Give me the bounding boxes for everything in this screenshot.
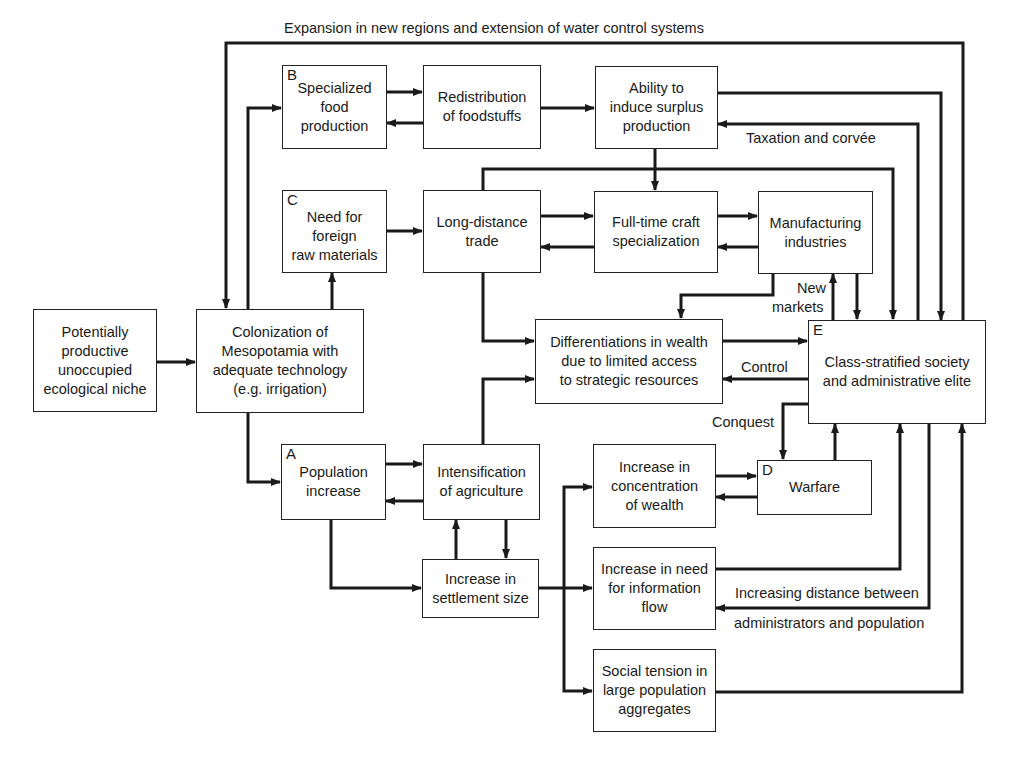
node-population: A Population increase xyxy=(281,444,386,520)
node-letter-c: C xyxy=(287,192,298,208)
node-redistribution: Redistribution of foodstuffs xyxy=(423,65,541,149)
node-social-tension-text: Social tension in large population aggre… xyxy=(602,662,708,719)
node-niche: Potentially productive unoccupied ecolog… xyxy=(33,309,157,412)
node-specialized-food: B Specialized food production xyxy=(282,65,387,149)
node-foreign-materials: C Need for foreign raw materials xyxy=(282,190,387,273)
node-warfare-text: Warfare xyxy=(789,478,840,497)
node-long-distance-trade: Long-distance trade xyxy=(423,190,541,273)
node-intensification-text: Intensification of agriculture xyxy=(437,463,526,501)
node-class-stratified: E Class-stratified society and administr… xyxy=(808,320,986,424)
node-craft-specialization-text: Full-time craft specialization xyxy=(612,213,700,251)
expansion-label: Expansion in new regions and extension o… xyxy=(284,20,704,37)
node-foreign-materials-text: Need for foreign raw materials xyxy=(291,208,377,265)
node-specialized-food-text: Specialized food production xyxy=(297,79,371,136)
conquest-label: Conquest xyxy=(712,414,774,431)
distance-label-line1: Increasing distance between xyxy=(735,585,919,602)
node-social-tension: Social tension in large population aggre… xyxy=(593,649,716,732)
distance-label-line2: administrators and population xyxy=(734,615,924,632)
node-information-flow-text: Increase in need for information flow xyxy=(601,560,708,617)
node-colonization-text: Colonization of Mesopotamia with adequat… xyxy=(213,323,348,399)
node-information-flow: Increase in need for information flow xyxy=(593,547,716,630)
node-surplus: Ability to induce surplus production xyxy=(595,66,718,149)
taxation-label: Taxation and corvée xyxy=(746,130,876,147)
node-class-stratified-text: Class-stratified society and administrat… xyxy=(823,353,971,391)
node-craft-specialization: Full-time craft specialization xyxy=(594,191,718,273)
node-intensification: Intensification of agriculture xyxy=(423,444,540,520)
node-redistribution-text: Redistribution of foodstuffs xyxy=(438,88,527,126)
node-letter-a: A xyxy=(286,446,296,462)
node-manufacturing: Manufacturing industries xyxy=(758,191,873,274)
node-differentiations: Differentiations in wealth due to limite… xyxy=(535,319,723,404)
node-letter-b: B xyxy=(287,67,297,83)
node-long-distance-trade-text: Long-distance trade xyxy=(436,213,527,251)
node-niche-text: Potentially productive unoccupied ecolog… xyxy=(43,323,146,399)
node-letter-d: D xyxy=(762,462,773,478)
node-differentiations-text: Differentiations in wealth due to limite… xyxy=(550,333,708,390)
node-population-text: Population increase xyxy=(299,463,368,501)
node-letter-e: E xyxy=(813,322,823,338)
node-settlement-size-text: Increase in settlement size xyxy=(432,570,529,608)
flow-diagram: Expansion in new regions and extension o… xyxy=(0,0,1011,759)
control-label: Control xyxy=(741,359,788,376)
new-markets-label-line1: New xyxy=(797,280,826,297)
node-concentration-wealth: Increase in concentration of wealth xyxy=(593,444,716,528)
node-colonization: Colonization of Mesopotamia with adequat… xyxy=(196,309,364,413)
node-settlement-size: Increase in settlement size xyxy=(422,559,539,618)
node-concentration-wealth-text: Increase in concentration of wealth xyxy=(611,458,698,515)
node-surplus-text: Ability to induce surplus production xyxy=(610,79,704,136)
new-markets-label-line2: markets xyxy=(772,299,824,316)
node-warfare: D Warfare xyxy=(757,460,872,515)
node-manufacturing-text: Manufacturing industries xyxy=(770,214,862,252)
